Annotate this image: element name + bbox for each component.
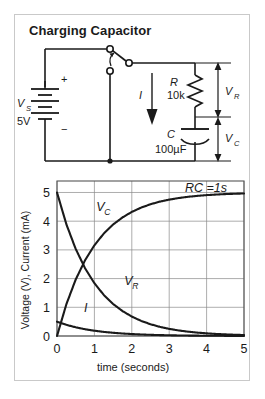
y-tick-label: 3	[43, 243, 50, 257]
page-title: Charging Capacitor	[29, 23, 151, 38]
vc-measurement: V C	[195, 117, 240, 162]
resistor-value-label: 10k	[167, 89, 185, 101]
source-name-label: V	[17, 97, 26, 109]
figure-panel: Charging Capacitor + −	[14, 14, 250, 381]
battery-plus-label: +	[61, 73, 67, 85]
source-value-label: 5V	[17, 115, 31, 127]
capacitor-name-label: C	[167, 128, 175, 140]
current-arrow	[147, 73, 158, 125]
y-tick-label: 5	[43, 186, 50, 200]
source-label-group: V S 5V	[17, 97, 31, 127]
chart-panel: 012345012345 VCVRI RC =1s time (seconds)…	[15, 175, 251, 380]
current-label: I	[139, 89, 142, 101]
resistor-symbol	[188, 63, 202, 129]
x-tick-label: 0	[54, 342, 61, 356]
source-name-sub: S	[26, 104, 31, 113]
vc-sub: C	[234, 139, 240, 148]
switch-throw-arrow-head	[109, 53, 114, 57]
series-label-I: I	[84, 301, 88, 315]
circuit-svg: + − V S 5V	[15, 37, 251, 173]
x-tick-label: 4	[203, 342, 210, 356]
vc-label: V	[225, 132, 234, 144]
junction-dot-bottom	[107, 158, 112, 163]
y-tick-label: 4	[43, 215, 50, 229]
x-tick-label: 3	[166, 342, 173, 356]
switch-open-terminal[interactable]	[107, 68, 113, 74]
y-tick-label: 1	[43, 301, 50, 315]
resistor-name-label: R	[170, 76, 178, 88]
chart-svg: 012345012345 VCVRI RC =1s time (seconds)…	[15, 175, 251, 380]
battery-symbol	[31, 89, 59, 119]
x-tick-label: 1	[91, 342, 98, 356]
x-tick-label: 5	[241, 342, 248, 356]
circuit-diagram: + − V S 5V	[15, 37, 251, 173]
series-sublabel-V_C: C	[104, 207, 111, 217]
x-axis-label: time (seconds)	[97, 361, 169, 373]
chart-tick-labels: 012345012345	[43, 186, 247, 356]
y-tick-label: 0	[43, 330, 50, 344]
curve-V_C	[57, 193, 244, 336]
switch-blade[interactable]	[113, 51, 126, 61]
x-tick-label: 2	[128, 342, 135, 356]
spdt-switch[interactable]	[107, 46, 132, 74]
y-tick-label: 2	[43, 272, 50, 286]
rc-annotation: RC =1s	[185, 181, 227, 195]
battery-minus-label: −	[61, 123, 67, 135]
switch-closed-terminal[interactable]	[126, 60, 132, 66]
capacitor-value-label: 100µF	[155, 143, 187, 155]
vr-label: V	[225, 85, 234, 97]
vr-sub: R	[234, 92, 240, 101]
y-axis-label: Voltage (V), Current (mA)	[19, 211, 31, 329]
series-sublabel-V_R: R	[132, 281, 138, 291]
chart-series-labels: VCVRI	[84, 200, 139, 314]
